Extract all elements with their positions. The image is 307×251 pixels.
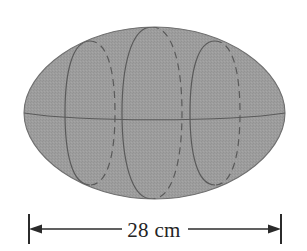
arrowhead-right-icon xyxy=(268,225,281,234)
ellipsoid-outline xyxy=(24,27,285,199)
arrowhead-left-icon xyxy=(29,225,42,234)
ellipsoid-body xyxy=(24,27,285,199)
ellipsoid-diagram: 28 cm xyxy=(0,0,307,251)
dimension-label: 28 cm xyxy=(127,218,180,242)
figure-container: 28 cm xyxy=(0,0,307,251)
